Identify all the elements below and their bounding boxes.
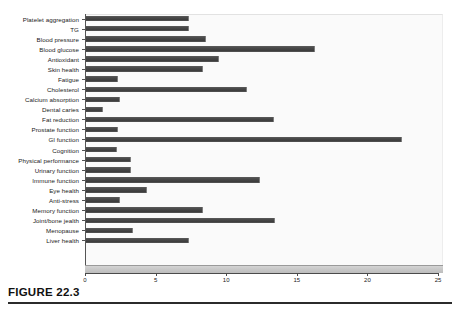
bar-row: Memory function — [0, 205, 443, 215]
bar — [86, 147, 117, 152]
bar-track — [86, 24, 443, 34]
bar-category-label: GI function — [0, 136, 82, 143]
bar-track — [86, 135, 443, 145]
bar-category-label: Urinary function — [0, 167, 82, 174]
bar-track — [86, 115, 443, 125]
bar-row: Immune function — [0, 175, 443, 185]
bar-track — [86, 216, 443, 226]
bar-row: Liver health — [0, 236, 443, 246]
x-axis-tick-label: 15 — [293, 276, 300, 284]
caption-divider — [8, 302, 452, 304]
x-axis-tick-label: 0 — [83, 276, 86, 284]
bar-track — [86, 185, 443, 195]
x-axis: 0510152025 — [85, 273, 443, 287]
bar-category-label: Platelet aggregation — [0, 16, 82, 23]
bar-track — [86, 205, 443, 215]
bar-row: Menopause — [0, 226, 443, 236]
bar-track — [86, 95, 443, 105]
bar — [86, 207, 203, 212]
bar-row: Calcium absorption — [0, 95, 443, 105]
bar-track — [86, 54, 443, 64]
bar-category-label: Cholesterol — [0, 86, 82, 93]
bar-row: Urinary function — [0, 165, 443, 175]
bar-track — [86, 155, 443, 165]
bar-row: Skin health — [0, 64, 443, 74]
bar — [86, 76, 118, 81]
x-axis-tick-label: 25 — [435, 276, 442, 284]
bar-track — [86, 44, 443, 54]
bar-category-label: Physical performance — [0, 157, 82, 164]
bar — [86, 228, 133, 233]
bar — [86, 218, 275, 223]
bar — [86, 197, 120, 202]
bar — [86, 87, 247, 92]
bar — [86, 16, 189, 21]
bar-category-label: Cognition — [0, 147, 82, 154]
bar-track — [86, 34, 443, 44]
bar-chart: Platelet aggregationTGBlood pressureBloo… — [0, 0, 460, 278]
bar — [86, 36, 206, 41]
bar-track — [86, 165, 443, 175]
figure-22-3: Platelet aggregationTGBlood pressureBloo… — [0, 0, 460, 313]
bar-category-label: Immune function — [0, 177, 82, 184]
bar-row: TG — [0, 24, 443, 34]
bar — [86, 187, 147, 192]
bar-track — [86, 145, 443, 155]
figure-caption-block: FIGURE 22.3 — [8, 286, 452, 304]
bar — [86, 137, 402, 142]
figure-caption: FIGURE 22.3 — [8, 286, 452, 299]
bar-row: Prostate function — [0, 125, 443, 135]
bar-row: Cholesterol — [0, 85, 443, 95]
bar-category-label: Joint/bone jealth — [0, 217, 82, 224]
bar — [86, 117, 274, 122]
bar-track — [86, 125, 443, 135]
bar-category-label: Menopause — [0, 227, 82, 234]
bar-row: GI function — [0, 135, 443, 145]
bar-category-label: Blood pressure — [0, 36, 82, 43]
bar-track — [86, 64, 443, 74]
bar-row: Fat reduction — [0, 115, 443, 125]
bar — [86, 46, 315, 51]
x-axis-line — [85, 273, 438, 274]
bar-category-label: Fat reduction — [0, 116, 82, 123]
bar-rows: Platelet aggregationTGBlood pressureBloo… — [0, 14, 443, 266]
bar — [86, 56, 219, 61]
bar-category-label: TG — [0, 26, 82, 33]
bar-row: Antioxidant — [0, 54, 443, 64]
bar-category-label: Calcium absorption — [0, 96, 82, 103]
bar-row: Fatigue — [0, 74, 443, 84]
bar-track — [86, 14, 443, 24]
bar-row: Eye health — [0, 185, 443, 195]
bar-track — [86, 74, 443, 84]
x-axis-tick-label: 10 — [223, 276, 230, 284]
bar-track — [86, 236, 443, 246]
bar-row: Cognition — [0, 145, 443, 155]
bar-category-label: Blood glucose — [0, 46, 82, 53]
bar-row: Anti-stress — [0, 195, 443, 205]
bar-category-label: Prostate function — [0, 126, 82, 133]
x-axis-tick-label: 5 — [154, 276, 157, 284]
bar — [86, 127, 118, 132]
axis-floor-slab — [85, 266, 443, 273]
bar-row: Blood glucose — [0, 44, 443, 54]
bar — [86, 167, 131, 172]
bar-category-label: Skin health — [0, 66, 82, 73]
bar — [86, 238, 189, 243]
bar-row: Platelet aggregation — [0, 14, 443, 24]
bar-track — [86, 195, 443, 205]
x-axis-tick-label: 20 — [364, 276, 371, 284]
bar-category-label: Antioxidant — [0, 56, 82, 63]
bar — [86, 107, 103, 112]
bar-track — [86, 85, 443, 95]
bar — [86, 157, 131, 162]
bar — [86, 26, 189, 31]
bar-row: Physical performance — [0, 155, 443, 165]
bar — [86, 177, 260, 182]
bar-row: Blood pressure — [0, 34, 443, 44]
bar-category-label: Dental caries — [0, 106, 82, 113]
bar-row: Dental caries — [0, 105, 443, 115]
bar-track — [86, 105, 443, 115]
bar-category-label: Anti-stress — [0, 197, 82, 204]
bar — [86, 66, 203, 71]
bar-category-label: Eye health — [0, 187, 82, 194]
